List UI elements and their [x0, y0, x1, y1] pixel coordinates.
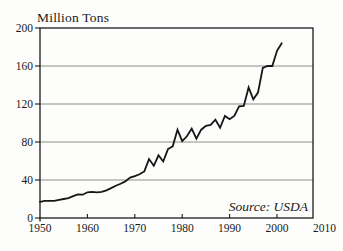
- y-tick-label: 160: [16, 60, 34, 72]
- gridlines-group: [40, 66, 313, 180]
- y-tick-label: 80: [22, 136, 34, 148]
- x-tick-label: 1960: [76, 222, 99, 234]
- x-tick-label: 1990: [218, 222, 241, 234]
- y-tick-label: 200: [16, 22, 34, 34]
- y-tick-label: 40: [22, 174, 34, 186]
- axes-group: [35, 28, 313, 222]
- x-tick-label: 1970: [123, 222, 146, 234]
- y-tick-label: 120: [16, 98, 34, 110]
- data-series-group: [40, 43, 282, 202]
- x-tick-label: 2000: [266, 222, 289, 234]
- plot-frame: [40, 28, 313, 218]
- x-tick-label: 1980: [171, 222, 194, 234]
- data-line: [40, 43, 282, 202]
- chart-figure: Million Tons 040801201602001950196019701…: [0, 0, 343, 251]
- x-tick-label: 1950: [29, 222, 52, 234]
- source-label: Source: USDA: [229, 199, 308, 215]
- x-tick-label: 2010: [313, 222, 336, 234]
